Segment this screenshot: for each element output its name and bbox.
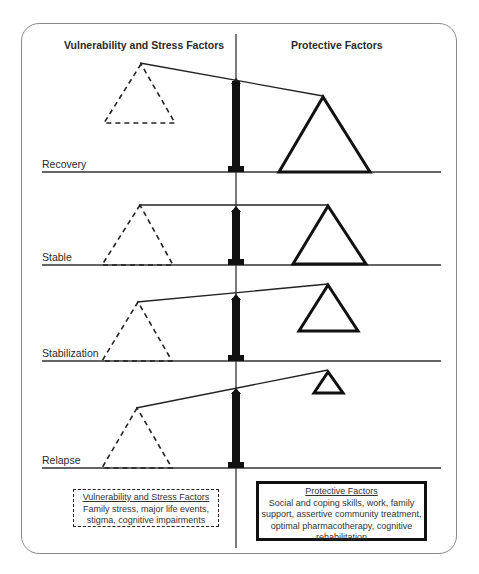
vulnerability-triangle (102, 408, 172, 468)
protective-triangle (279, 97, 370, 172)
pillar (232, 210, 240, 260)
row-relapse (42, 370, 441, 468)
beam (140, 63, 323, 96)
pillar-cap (231, 294, 241, 300)
row-stable (42, 205, 441, 265)
vulnerability-triangle (102, 205, 173, 265)
row-stabilization (42, 284, 441, 361)
legend-vulnerability-title: Vulnerability and Stress Factors (74, 492, 218, 504)
pillar (232, 81, 240, 167)
row-label-stabilization: Stabilization (42, 347, 99, 359)
legend-protective-title: Protective Factors (259, 486, 424, 498)
pillar (232, 392, 240, 463)
pillar (232, 298, 240, 356)
row-label-recovery: Recovery (42, 158, 86, 170)
legend-vulnerability: Vulnerability and Stress Factors Family … (73, 489, 219, 527)
vulnerability-triangle (102, 302, 172, 361)
legend-protective: Protective Factors Social and coping ski… (256, 481, 427, 541)
legend-vulnerability-body: Family stress, major life events, stigma… (74, 504, 218, 527)
legend-protective-body: Social and coping skills, work, family s… (259, 498, 424, 544)
row-label-relapse: Relapse (42, 454, 81, 466)
row-recovery (42, 63, 441, 172)
protective-triangle (299, 285, 358, 331)
pillar-cap (231, 206, 241, 212)
protective-triangle (314, 372, 343, 393)
header-vulnerability: Vulnerability and Stress Factors (64, 39, 224, 51)
header-protective: Protective Factors (291, 39, 383, 51)
protective-triangle (293, 206, 366, 264)
row-label-stable: Stable (42, 251, 72, 263)
vulnerability-triangle (104, 64, 175, 123)
